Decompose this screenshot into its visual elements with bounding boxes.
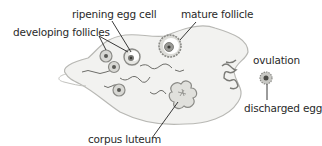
developing-follicle xyxy=(109,62,120,73)
label-mature-follicle: mature follicle xyxy=(181,9,253,20)
label-corpus-luteum: corpus luteum xyxy=(88,134,161,145)
mature-follicle xyxy=(159,35,181,57)
developing-follicle xyxy=(100,50,112,62)
developing-follicle xyxy=(113,84,125,96)
ovary-diagram xyxy=(0,0,322,146)
label-discharged-egg: discharged egg xyxy=(244,103,322,114)
label-developing-follicles: developing follicles xyxy=(13,27,110,38)
label-ripening-egg-cell: ripening egg cell xyxy=(72,9,156,20)
ovary-body xyxy=(64,26,248,125)
discharged-egg xyxy=(260,72,272,84)
label-ovulation: ovulation xyxy=(253,55,300,66)
